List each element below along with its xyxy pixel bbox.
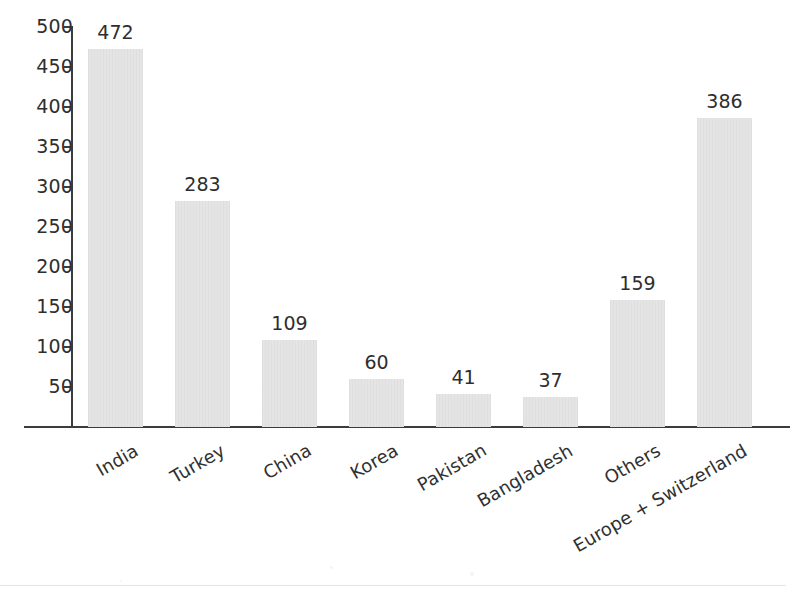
bar xyxy=(610,300,665,427)
y-axis-tick-label: 150 xyxy=(10,297,73,316)
scan-artifact-speck xyxy=(120,580,122,582)
y-axis-tick-label: 400 xyxy=(10,97,73,116)
y-axis-tick-label: 100 xyxy=(10,337,73,356)
bar xyxy=(436,394,491,427)
bar xyxy=(88,49,143,427)
y-axis-line xyxy=(71,26,73,428)
scan-artifact-speck xyxy=(330,566,333,569)
bar-value-label: 60 xyxy=(329,353,424,372)
y-axis-tick-label-text: 200 xyxy=(29,257,73,276)
y-axis-tick-label: 350 xyxy=(10,137,73,156)
bar-value-label: 159 xyxy=(590,274,685,293)
x-axis-category-label: Turkey xyxy=(167,440,228,487)
y-axis-tick-label: 250 xyxy=(10,217,73,236)
x-axis-category-label: Bangladesh xyxy=(474,440,576,511)
x-axis-category-label: Korea xyxy=(347,440,402,483)
y-axis-tick-label-text: 500 xyxy=(29,17,73,36)
y-axis-tick-label-text: 100 xyxy=(29,337,73,356)
bar-value-label: 283 xyxy=(155,175,250,194)
bar xyxy=(175,201,230,427)
y-axis-tick-label-text: 50 xyxy=(29,377,73,396)
y-axis-tick-label: 450 xyxy=(10,57,73,76)
bar-value-label: 109 xyxy=(242,314,337,333)
bar xyxy=(349,379,404,427)
bar-value-label: 37 xyxy=(503,371,598,390)
x-axis-category-label: China xyxy=(260,440,315,483)
y-axis-tick-label: 500 xyxy=(10,17,73,36)
bar xyxy=(697,118,752,427)
y-axis-tick-label-text: 150 xyxy=(29,297,73,316)
y-axis-tick-label-text: 350 xyxy=(29,137,73,156)
bar-value-label: 41 xyxy=(416,368,511,387)
bar xyxy=(523,397,578,427)
bar-value-label: 386 xyxy=(677,92,772,111)
y-axis-tick-label: 200 xyxy=(10,257,73,276)
y-axis-tick-label: 300 xyxy=(10,177,73,196)
scan-artifact-speck xyxy=(470,572,474,576)
y-axis-tick-label: 50 xyxy=(10,377,73,396)
y-axis-tick-label-text: 400 xyxy=(29,97,73,116)
bar xyxy=(262,340,317,427)
x-axis-category-label: India xyxy=(93,440,142,480)
x-axis-category-label: Pakistan xyxy=(414,440,490,495)
y-axis-tick-label-text: 300 xyxy=(29,177,73,196)
scan-artifact-line xyxy=(0,585,786,586)
x-axis-category-label: Others xyxy=(601,440,664,488)
y-axis-tick-label-text: 450 xyxy=(29,57,73,76)
y-axis-tick-label-text: 250 xyxy=(29,217,73,236)
bar-value-label: 472 xyxy=(68,23,163,42)
